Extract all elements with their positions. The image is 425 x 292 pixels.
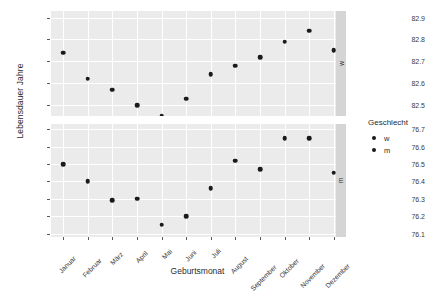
y-tick-mark bbox=[47, 199, 50, 200]
gridline-horizontal bbox=[51, 39, 336, 40]
gridline-vertical bbox=[285, 11, 286, 116]
legend: Geschlecht wm bbox=[368, 118, 408, 156]
gridline-horizontal bbox=[51, 164, 336, 165]
gridline-horizontal bbox=[51, 129, 336, 130]
gridline-vertical bbox=[63, 11, 64, 116]
data-point bbox=[159, 114, 164, 116]
y-tick-label: 82.5 bbox=[381, 102, 425, 109]
data-point bbox=[135, 196, 140, 201]
gridline-vertical bbox=[112, 124, 113, 237]
y-axis-title: Lebensdauer Jahre bbox=[15, 41, 25, 161]
data-point bbox=[233, 63, 238, 68]
y-tick-mark bbox=[47, 83, 50, 84]
data-point bbox=[233, 158, 238, 163]
x-tick-mark bbox=[186, 237, 187, 240]
gridline-vertical bbox=[137, 124, 138, 237]
y-tick-mark bbox=[47, 216, 50, 217]
gridline-vertical bbox=[63, 124, 64, 237]
x-tick-mark bbox=[285, 237, 286, 240]
legend-item-m[interactable]: m bbox=[368, 144, 408, 156]
y-tick-label: 82.9 bbox=[381, 14, 425, 21]
data-point bbox=[135, 103, 140, 108]
gridline-vertical bbox=[235, 124, 236, 237]
gridline-vertical bbox=[186, 124, 187, 237]
facet-strip-label: w bbox=[337, 61, 344, 66]
y-tick-label: 82.8 bbox=[381, 36, 425, 43]
gridline-horizontal bbox=[51, 216, 336, 217]
gridline-vertical bbox=[260, 11, 261, 116]
gridline-vertical bbox=[285, 124, 286, 237]
y-tick-label: 76.4 bbox=[381, 178, 425, 185]
gridline-horizontal bbox=[51, 61, 336, 62]
y-tick-mark bbox=[47, 181, 50, 182]
legend-label: m bbox=[384, 146, 390, 155]
x-tick-label: April bbox=[134, 250, 149, 265]
x-tick-mark bbox=[260, 237, 261, 240]
legend-title: Geschlecht bbox=[368, 118, 408, 127]
data-point bbox=[282, 136, 287, 141]
x-tick-label: Juli bbox=[210, 247, 222, 259]
y-tick-mark bbox=[47, 234, 50, 235]
x-tick-mark bbox=[309, 237, 310, 240]
facet-strip-w: w bbox=[336, 11, 346, 116]
x-tick-label: März bbox=[109, 251, 125, 267]
gridline-horizontal bbox=[51, 199, 336, 200]
y-tick-mark bbox=[47, 129, 50, 130]
gridline-vertical bbox=[88, 11, 89, 116]
gridline-vertical bbox=[309, 124, 310, 237]
x-tick-mark bbox=[211, 237, 212, 240]
x-tick-mark bbox=[137, 237, 138, 240]
gridline-horizontal bbox=[51, 83, 336, 84]
data-point bbox=[208, 72, 213, 77]
legend-marker-icon bbox=[368, 132, 380, 144]
y-tick-mark bbox=[47, 164, 50, 165]
data-point bbox=[110, 198, 115, 203]
gridline-horizontal bbox=[51, 234, 336, 235]
gridline-horizontal bbox=[51, 105, 336, 106]
gridline-vertical bbox=[334, 124, 335, 237]
legend-items: wm bbox=[368, 132, 408, 156]
x-tick-mark bbox=[63, 237, 64, 240]
data-point bbox=[61, 162, 66, 167]
facet-strip-m: m bbox=[336, 124, 346, 237]
data-point bbox=[86, 179, 91, 184]
gridline-horizontal bbox=[51, 18, 336, 19]
gridline-vertical bbox=[162, 11, 163, 116]
x-tick-mark bbox=[235, 237, 236, 240]
facet-strip-label: m bbox=[337, 178, 344, 183]
gridline-vertical bbox=[137, 11, 138, 116]
x-axis-title: Geburtsmonat bbox=[55, 266, 340, 276]
legend-item-w[interactable]: w bbox=[368, 132, 408, 144]
x-tick-mark bbox=[112, 237, 113, 240]
gridline-vertical bbox=[260, 124, 261, 237]
y-tick-label: 82.7 bbox=[381, 58, 425, 65]
data-point bbox=[159, 223, 164, 228]
y-tick-label: 76.1 bbox=[381, 230, 425, 237]
gridline-vertical bbox=[309, 11, 310, 116]
data-point bbox=[61, 50, 66, 55]
x-tick-mark bbox=[162, 237, 163, 240]
data-point bbox=[184, 96, 189, 101]
data-point bbox=[258, 167, 263, 172]
gridline-vertical bbox=[162, 124, 163, 237]
y-tick-mark bbox=[47, 39, 50, 40]
gridline-vertical bbox=[211, 11, 212, 116]
gridline-vertical bbox=[334, 11, 335, 116]
panel-m bbox=[51, 124, 336, 237]
legend-label: w bbox=[384, 134, 389, 143]
data-point bbox=[258, 55, 263, 60]
legend-marker-icon bbox=[368, 144, 380, 156]
y-tick-label: 76.5 bbox=[381, 160, 425, 167]
data-point bbox=[208, 186, 213, 191]
x-tick-mark bbox=[334, 237, 335, 240]
panel-w bbox=[51, 11, 336, 116]
x-tick-mark bbox=[88, 237, 89, 240]
gridline-vertical bbox=[211, 124, 212, 237]
y-tick-label: 76.2 bbox=[381, 213, 425, 220]
gridline-vertical bbox=[112, 11, 113, 116]
data-point bbox=[184, 214, 189, 219]
data-point bbox=[307, 28, 312, 33]
x-tick-label: Mai bbox=[160, 248, 173, 261]
data-point bbox=[307, 136, 312, 141]
